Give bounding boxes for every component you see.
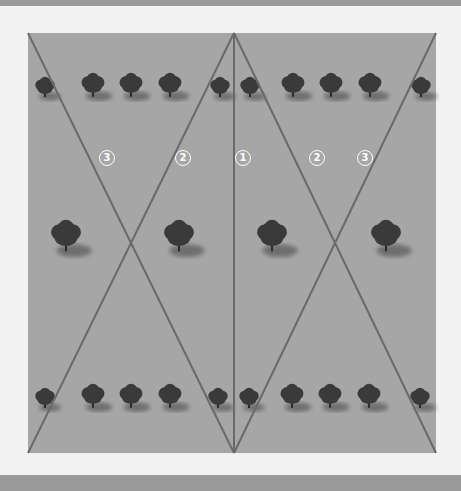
zone-number-label: 3 — [99, 150, 115, 166]
tree-icon — [210, 77, 236, 101]
tree-icon — [371, 220, 412, 257]
zone-number-label: 2 — [309, 150, 325, 166]
tree-icon — [82, 73, 113, 101]
tree-icon — [282, 73, 313, 101]
tree-icon — [358, 384, 389, 412]
diagram-overlay — [0, 0, 461, 491]
tree-icon — [257, 220, 298, 257]
bottom-band — [0, 475, 461, 491]
tree-icon — [51, 220, 92, 257]
tree-icon — [239, 388, 265, 412]
zone-number-label: 3 — [357, 150, 373, 166]
tree-icon — [159, 384, 190, 412]
tree-icon — [159, 73, 190, 101]
tree-icon — [320, 73, 351, 101]
zone-number-label: 1 — [235, 150, 251, 166]
tree-icon — [281, 384, 312, 412]
tree-icon — [359, 73, 390, 101]
tree-icon — [82, 384, 113, 412]
tree-icon — [319, 384, 350, 412]
tree-icon — [120, 73, 151, 101]
tree-icon — [164, 220, 205, 257]
tree-icon — [120, 384, 151, 412]
tree-icon — [35, 77, 61, 101]
tree-icon — [240, 77, 266, 101]
zone-number-label: 2 — [175, 150, 191, 166]
tree-icon — [411, 77, 437, 101]
